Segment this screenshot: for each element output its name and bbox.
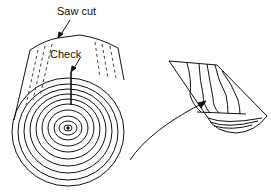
diagram-canvas	[0, 0, 271, 195]
leader-lines	[58, 20, 80, 72]
saw-cut-label: Saw cut	[57, 6, 96, 17]
check-label: Check	[50, 49, 81, 60]
board	[169, 61, 267, 133]
curved-arrow	[130, 101, 206, 160]
log-end-grain	[12, 78, 124, 186]
